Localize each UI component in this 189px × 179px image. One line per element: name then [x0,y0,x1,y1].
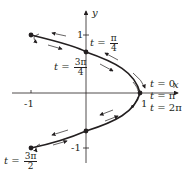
label-t-3pi-over-4: t = 3π4 [54,58,87,77]
y-axis [83,11,89,163]
x-tick-1: 1 [141,99,147,109]
label-t-0: t = 0 [150,79,175,89]
label-t-pi: t = π [150,91,175,101]
label-t-3pi-over-2: t = 3π2 [4,152,37,171]
label-t-2pi: t = 2π [150,103,182,113]
y-tick-neg1: -1 [71,143,81,153]
label-t-pi-over-4: t = π4 [90,34,118,53]
y-tick-1: 1 [77,30,83,40]
y-axis-label: y [92,8,98,18]
curve-points [29,33,143,151]
x-tick-neg1: -1 [24,99,34,109]
